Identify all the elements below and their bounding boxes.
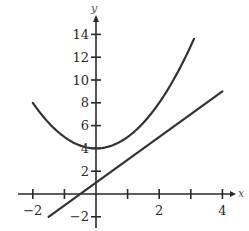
y-axis-label: y xyxy=(90,2,98,15)
parabola-curve xyxy=(33,39,194,149)
x-tick-label: 4 xyxy=(218,203,226,218)
linear-line xyxy=(49,91,223,216)
function-graph: −224−22468101214 x y xyxy=(0,0,249,231)
y-tick-label: 8 xyxy=(81,95,89,110)
y-tick-label: 14 xyxy=(72,27,89,42)
y-axis-arrow-icon xyxy=(93,15,99,22)
y-tick-label: 6 xyxy=(81,118,89,133)
y-tick-label: 2 xyxy=(81,164,89,179)
y-tick-label: 12 xyxy=(72,50,89,65)
x-tick-label: −2 xyxy=(23,203,42,218)
axis-ticks xyxy=(33,34,223,216)
x-tick-label: 2 xyxy=(155,203,163,218)
x-axis-arrow-icon xyxy=(230,191,236,197)
y-tick-label: −2 xyxy=(70,209,89,224)
x-axis-label: x xyxy=(238,187,245,200)
y-tick-label: 10 xyxy=(72,73,89,88)
